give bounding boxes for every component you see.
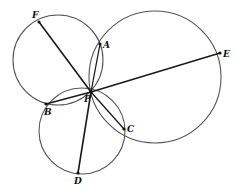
diagram-canvas: F A E P B C D <box>0 0 235 191</box>
label-A: A <box>102 40 110 50</box>
point-A <box>98 42 101 45</box>
point-C <box>122 127 125 130</box>
label-E: E <box>222 49 230 59</box>
point-D <box>76 171 79 174</box>
label-D: D <box>73 176 82 186</box>
lower-circle <box>39 88 125 174</box>
point-F <box>37 20 40 23</box>
label-F: F <box>31 10 39 20</box>
point-E <box>218 51 221 54</box>
segment-FP <box>39 22 91 92</box>
right-circle <box>89 11 221 143</box>
label-C: C <box>127 124 135 134</box>
segment-DP <box>78 92 91 173</box>
label-B: B <box>43 107 52 117</box>
point-B <box>44 102 47 105</box>
label-P: P <box>83 94 91 104</box>
geometry-diagram: F A E P B C D <box>0 0 235 191</box>
segment-EP <box>91 53 220 92</box>
